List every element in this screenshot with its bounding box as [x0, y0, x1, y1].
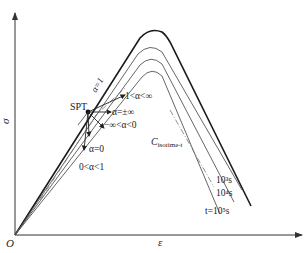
alpha-neg-label: −∞<α<0: [104, 120, 137, 130]
y-axis-label: σ: [0, 118, 11, 124]
arrow-zero: [88, 112, 89, 136]
isotime-curve-label-sub: isotime-t: [158, 141, 183, 149]
alpha-zero-label: α=0: [89, 144, 104, 154]
alpha-gt1-label: 1<α<∞: [125, 91, 152, 101]
stress-strain-diagram: σ ε O SPT α=1 1<α<∞ α=±∞ −∞<α<0 α=0 0<α<…: [0, 0, 306, 253]
alpha-1-label: α=1: [89, 76, 105, 94]
time-label-1e4: 10⁴s: [216, 188, 233, 198]
alpha-pm-inf-label: α=±∞: [112, 107, 135, 117]
time-label-1e3: 10³s: [216, 175, 232, 185]
isotime-dashdot-line: [40, 88, 214, 200]
time-label-1e5: t=10⁵s: [205, 206, 230, 216]
arrow-neg: [88, 112, 104, 128]
isotime-curve-1e4: [15, 59, 234, 235]
isotime-curve-label: Cisotime-t: [151, 136, 183, 149]
alpha-between-label: 0<α<1: [79, 162, 104, 172]
spt-label: SPT: [70, 101, 87, 112]
origin-label: O: [6, 237, 14, 249]
x-axis-label: ε: [158, 236, 163, 248]
